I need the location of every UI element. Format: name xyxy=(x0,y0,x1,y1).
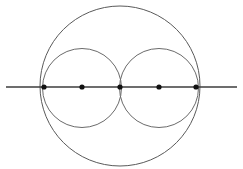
point-left-center xyxy=(79,84,84,89)
point-tangency-midpoint xyxy=(117,84,122,89)
point-right-endpoint xyxy=(193,84,198,89)
point-left-endpoint xyxy=(41,84,46,89)
geometry-figure-canvas xyxy=(0,0,243,169)
point-right-center xyxy=(156,84,161,89)
geometry-figure-svg xyxy=(0,0,243,169)
